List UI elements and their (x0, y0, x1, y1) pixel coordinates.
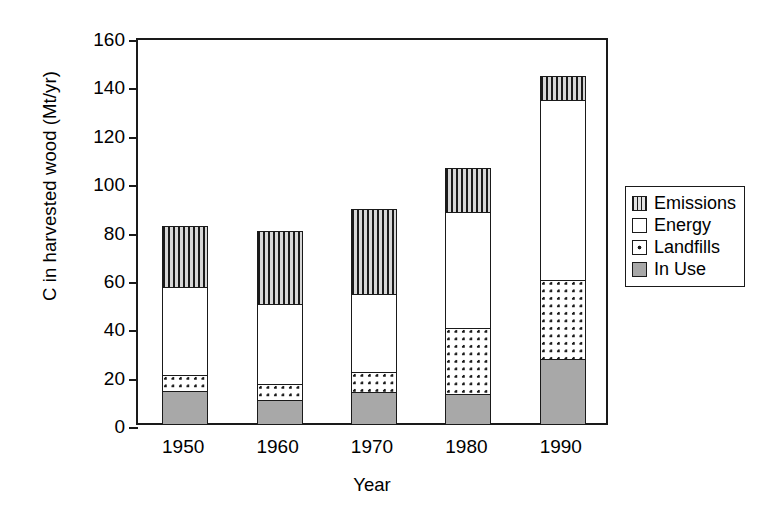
y-tick-label: 20 (104, 368, 125, 390)
y-tick-label: 60 (104, 271, 125, 293)
legend-item-energy[interactable]: Energy (632, 214, 736, 236)
bar-segment-landfills[interactable] (445, 328, 491, 396)
bar-segment-landfills[interactable] (257, 384, 303, 402)
bar-group-1960[interactable] (257, 40, 303, 423)
bar-stack (162, 226, 208, 423)
emissions-swatch-icon (632, 196, 647, 211)
legend-label: Landfills (654, 238, 720, 256)
y-tick-mark (129, 379, 138, 381)
y-tick-label: 40 (104, 319, 125, 341)
x-axis-title: Year (136, 474, 608, 496)
bar-segment-emissions[interactable] (351, 209, 397, 296)
chart-legend: EmissionsEnergyLandfillsIn Use (625, 186, 745, 287)
y-tick-label: 80 (104, 223, 125, 245)
bar-segment-emissions[interactable] (540, 76, 586, 101)
y-tick-label: 140 (93, 77, 125, 99)
bar-stack (351, 209, 397, 423)
y-tick-mark (129, 88, 138, 90)
energy-swatch-icon (632, 218, 647, 233)
bar-group-1970[interactable] (351, 40, 397, 423)
y-tick-mark (129, 185, 138, 187)
bar-segment-in-use[interactable] (257, 400, 303, 424)
y-tick-mark (129, 330, 138, 332)
bar-segment-energy[interactable] (540, 100, 586, 281)
legend-item-in-use[interactable]: In Use (632, 258, 736, 280)
y-tick-mark (129, 427, 138, 429)
plot-area: 020406080100120140160 (136, 38, 608, 425)
bar-segment-energy[interactable] (445, 212, 491, 329)
x-tick-label-1980: 1980 (445, 436, 487, 458)
x-tick-label-1960: 1960 (256, 436, 298, 458)
bar-group-1980[interactable] (445, 40, 491, 423)
landfills-swatch-icon (632, 240, 647, 255)
bar-group-1990[interactable] (540, 40, 586, 423)
bar-group-1950[interactable] (162, 40, 208, 423)
bar-segment-in-use[interactable] (445, 394, 491, 424)
bar-segment-emissions[interactable] (445, 168, 491, 214)
y-tick-mark (129, 234, 138, 236)
bar-segment-in-use[interactable] (540, 359, 586, 424)
bar-segment-energy[interactable] (257, 304, 303, 385)
bar-segment-energy[interactable] (351, 294, 397, 373)
bar-series-container (138, 40, 606, 423)
bar-segment-landfills[interactable] (540, 280, 586, 361)
bar-segment-landfills[interactable] (351, 372, 397, 394)
bar-stack (540, 76, 586, 423)
bar-segment-in-use[interactable] (351, 392, 397, 425)
y-tick-label: 100 (93, 174, 125, 196)
legend-label: Energy (654, 216, 711, 234)
bar-segment-emissions[interactable] (162, 226, 208, 289)
legend-label: Emissions (654, 194, 736, 212)
y-tick-mark (129, 282, 138, 284)
x-tick-label-1990: 1990 (540, 436, 582, 458)
bar-stack (445, 168, 491, 423)
bar-stack (257, 231, 303, 423)
bar-segment-in-use[interactable] (162, 391, 208, 425)
y-tick-label: 160 (93, 29, 125, 51)
bar-segment-energy[interactable] (162, 287, 208, 376)
bar-segment-landfills[interactable] (162, 375, 208, 392)
y-axis-title: C in harvested wood (Mt/yr) (39, 0, 61, 396)
legend-item-landfills[interactable]: Landfills (632, 236, 736, 258)
y-tick-mark (129, 137, 138, 139)
chart-figure: C in harvested wood (Mt/yr) 020406080100… (0, 0, 782, 525)
y-tick-label: 120 (93, 126, 125, 148)
bar-segment-emissions[interactable] (257, 231, 303, 306)
y-tick-label: 0 (114, 416, 125, 438)
y-tick-mark (129, 40, 138, 42)
x-tick-label-1950: 1950 (162, 436, 204, 458)
legend-item-emissions[interactable]: Emissions (632, 192, 736, 214)
in-use-swatch-icon (632, 262, 647, 277)
x-tick-label-1970: 1970 (351, 436, 393, 458)
legend-label: In Use (654, 260, 706, 278)
